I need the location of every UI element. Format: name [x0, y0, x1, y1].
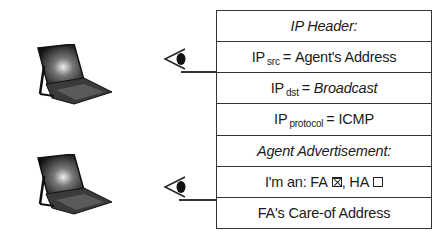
- row-prefix: IP: [271, 80, 284, 96]
- row-value: Agent's Address: [295, 49, 396, 65]
- row-prefix: IP: [274, 111, 287, 127]
- row-prefix: IP: [252, 49, 265, 65]
- eye-icon: [163, 174, 189, 200]
- row-equals: =: [283, 49, 291, 65]
- packet-row-ip-src: IP src = Agent's Address: [217, 42, 431, 73]
- packet-row-care-of-address: FA's Care-of Address: [217, 198, 431, 228]
- packet-row-ip-header: IP Header:: [217, 11, 431, 42]
- packet-row-ip-protocol: IP protocol = ICMP: [217, 104, 431, 135]
- row-label: FA's Care-of Address: [258, 205, 391, 221]
- row-separator: , HA: [342, 174, 369, 190]
- laptop-icon: [34, 44, 114, 106]
- packet-row-agent-advertisement: Agent Advertisement:: [217, 136, 431, 167]
- row-value: ICMP: [338, 111, 373, 127]
- row-prefix: I'm an: FA: [265, 174, 328, 190]
- row-subscript: src: [267, 56, 280, 67]
- arrow-line: [181, 71, 217, 73]
- packet-structure: IP Header: IP src = Agent's Address IP d…: [216, 10, 432, 229]
- row-label: IP Header:: [291, 18, 358, 34]
- checked-box-icon: [332, 177, 342, 187]
- laptop-icon: [34, 154, 114, 216]
- unchecked-box-icon: [373, 177, 383, 187]
- row-label: Agent Advertisement:: [257, 143, 391, 159]
- row-equals: =: [302, 80, 310, 96]
- eye-icon: [163, 46, 189, 72]
- packet-row-ip-dst: IP dst = Broadcast: [217, 73, 431, 104]
- packet-row-im-an: I'm an: FA , HA: [217, 167, 431, 198]
- row-subscript: protocol: [289, 118, 323, 129]
- row-equals: =: [326, 111, 334, 127]
- row-subscript: dst: [286, 87, 299, 98]
- row-value: Broadcast: [314, 80, 378, 96]
- arrow-line: [179, 199, 217, 201]
